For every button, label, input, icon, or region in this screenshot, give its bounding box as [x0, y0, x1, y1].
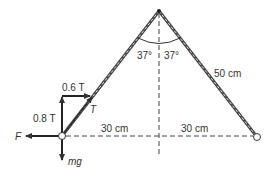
angle-right-label: 37°	[164, 50, 179, 61]
angle-left-label: 37°	[137, 50, 152, 61]
weight-label: mg	[68, 156, 82, 167]
left-sphere	[59, 133, 66, 140]
horizontal-tension-label: 0.6 T	[62, 82, 85, 93]
tension-arrow	[62, 97, 92, 136]
vertical-tension-label: 0.8 T	[33, 113, 56, 124]
physics-diagram: 37° 37° 50 cm 30 cm 30 cm 0.6 T 0.8 T T …	[0, 0, 273, 184]
string-length-label: 50 cm	[214, 68, 241, 79]
tension-label: T	[90, 104, 97, 115]
half-separation-left-label: 30 cm	[101, 123, 128, 134]
right-sphere	[254, 134, 261, 141]
electric-force-label: F	[15, 131, 22, 142]
right-string	[159, 11, 257, 137]
pivot-point	[157, 9, 161, 13]
half-separation-right-label: 30 cm	[181, 123, 208, 134]
